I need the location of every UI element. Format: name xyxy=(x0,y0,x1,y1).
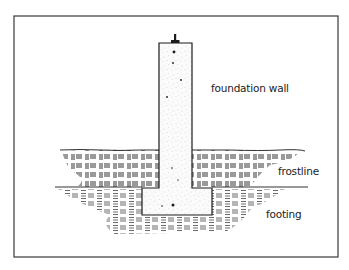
label-footing: footing xyxy=(266,209,302,220)
label-foundation-wall: foundation wall xyxy=(211,83,289,94)
label-frostline: frostline xyxy=(278,166,319,177)
foundation-diagram xyxy=(0,0,349,270)
